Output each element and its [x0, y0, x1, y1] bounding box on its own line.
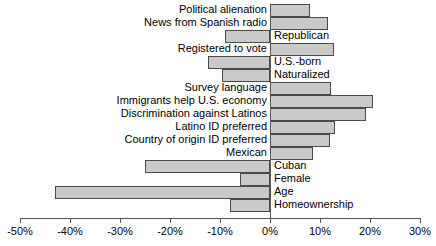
bar-row: Registered to vote	[0, 43, 431, 56]
bar-label: Homeownership	[274, 198, 353, 211]
axis-tick	[320, 218, 321, 223]
zero-line	[270, 4, 271, 218]
bar-label: Age	[274, 185, 294, 198]
axis-tick-label: -50%	[0, 225, 43, 238]
bar-label: U.S.-born	[274, 55, 321, 68]
bar[interactable]	[208, 56, 270, 69]
bar-row: Homeownership	[0, 199, 431, 212]
bar-row: Country of origin ID preferred	[0, 134, 431, 147]
bar-label: Republican	[274, 29, 329, 42]
axis-tick-label: -40%	[47, 225, 93, 238]
bar-label: Political alienation	[179, 3, 267, 16]
bar[interactable]	[55, 186, 270, 199]
bar[interactable]	[230, 199, 270, 212]
bar-label: Registered to vote	[178, 42, 267, 55]
bar-label: Country of origin ID preferred	[125, 133, 267, 146]
axis-tick	[370, 218, 371, 223]
bar-label: Discrimination against Latinos	[121, 107, 267, 120]
bar-row: Female	[0, 173, 431, 186]
bar-label: Immigrants help U.S. economy	[117, 94, 267, 107]
bar[interactable]	[270, 4, 310, 17]
bar-label: Survey language	[184, 81, 267, 94]
x-axis: -50%-40%-30%-20%-10%0%10%20%30%	[0, 218, 431, 246]
bar-row: Age	[0, 186, 431, 199]
axis-tick	[170, 218, 171, 223]
bar-label: Mexican	[226, 146, 267, 159]
bar[interactable]	[145, 160, 270, 173]
axis-tick-label: -10%	[197, 225, 243, 238]
axis-tick-label: 0%	[247, 225, 293, 238]
bar-row: Mexican	[0, 147, 431, 160]
bar[interactable]	[270, 121, 335, 134]
axis-tick	[420, 218, 421, 223]
bar[interactable]	[270, 134, 330, 147]
plot-area: Political alienationNews from Spanish ra…	[0, 0, 431, 212]
bar-label: Female	[274, 172, 311, 185]
axis-tick-label: -20%	[147, 225, 193, 238]
axis-tick	[120, 218, 121, 223]
axis-tick	[220, 218, 221, 223]
bar[interactable]	[240, 173, 270, 186]
axis-tick-label: -30%	[97, 225, 143, 238]
axis-tick	[70, 218, 71, 223]
bar-label: Cuban	[274, 159, 306, 172]
axis-tick-label: 20%	[347, 225, 393, 238]
axis-tick	[20, 218, 21, 223]
bar[interactable]	[270, 82, 331, 95]
axis-tick-label: 10%	[297, 225, 343, 238]
bar-label: Latino ID preferred	[175, 120, 267, 133]
bar-row: U.S.-born	[0, 56, 431, 69]
bar-row: Cuban	[0, 160, 431, 173]
bar-label: Naturalized	[274, 68, 330, 81]
axis-tick-label: 30%	[397, 225, 436, 238]
bar-label: News from Spanish radio	[144, 16, 267, 29]
bar[interactable]	[270, 108, 366, 121]
bar-row: News from Spanish radio	[0, 17, 431, 30]
bar[interactable]	[270, 95, 373, 108]
axis-tick	[270, 218, 271, 223]
